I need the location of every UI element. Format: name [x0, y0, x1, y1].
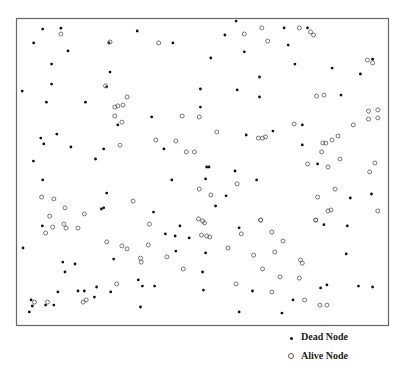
dead-node-point [202, 289, 205, 292]
dead-node-point [238, 226, 241, 229]
dead-node-point [50, 63, 53, 66]
dead-node-point [50, 83, 53, 86]
dead-node-point [55, 133, 58, 136]
dead-node-point [236, 89, 239, 92]
dead-node-point [287, 44, 290, 47]
dead-node-point [272, 130, 275, 133]
dead-node-point [70, 146, 73, 149]
dead-node-point [294, 63, 297, 66]
dead-node-point [238, 311, 241, 314]
dead-node-point [319, 287, 322, 290]
dead-node-point [340, 94, 343, 97]
dead-node-point [41, 28, 44, 31]
dead-node-point [235, 20, 238, 23]
dead-node-point [251, 290, 254, 293]
dead-node-point [174, 250, 177, 253]
dead-node-point [84, 101, 87, 104]
dead-node-point [172, 42, 175, 45]
dead-node-point [21, 90, 24, 93]
dead-node-point [283, 27, 286, 30]
dead-node-point [204, 252, 207, 255]
dead-node-point [64, 271, 67, 274]
dead-node-point [214, 205, 217, 208]
dead-node-point [349, 197, 352, 200]
dead-node-point [199, 88, 202, 91]
dead-node-point [41, 225, 44, 228]
dead-node-point [77, 290, 80, 293]
dead-node-point [316, 163, 319, 166]
dead-node-point [370, 193, 373, 196]
dead-node-point [45, 101, 48, 104]
dead-node-point [245, 134, 248, 137]
legend-item-alive: Alive Node [286, 350, 348, 361]
dead-node-point [109, 291, 112, 294]
dead-node-point [57, 291, 60, 294]
legend-label-alive: Alive Node [301, 350, 348, 361]
dead-node-point [152, 211, 155, 214]
dead-node-point [32, 42, 35, 45]
dead-node-point [371, 286, 374, 289]
dead-node-point [234, 170, 237, 173]
dead-node-point [31, 305, 34, 308]
dead-node-point [346, 225, 349, 228]
dead-node-point [150, 116, 153, 119]
dead-node-point [141, 285, 144, 288]
dead-node-point [137, 279, 140, 282]
dead-node-point [224, 34, 227, 37]
dead-node-point [32, 160, 35, 163]
dead-node-point [30, 299, 33, 302]
dead-node-point [139, 306, 142, 309]
scatter-plot [0, 0, 403, 373]
dead-node-point [331, 67, 334, 70]
dead-node-point [41, 179, 44, 182]
legend-label-dead: Dead Node [301, 331, 348, 342]
dead-node-point [83, 290, 86, 293]
dead-node-point [164, 233, 167, 236]
dead-node-point [281, 312, 284, 315]
dead-node-point [301, 124, 304, 127]
dead-node-point [39, 137, 42, 140]
dead-node-point [94, 158, 97, 161]
dead-node-point [105, 192, 108, 195]
dead-node-point [258, 76, 261, 79]
dead-node-point [112, 258, 115, 261]
dead-node-point [163, 148, 166, 151]
dead-node-point [93, 296, 96, 299]
dead-node-point [174, 235, 177, 238]
dead-node-point [28, 311, 31, 314]
dead-node-point [306, 27, 309, 30]
dead-node-point [60, 27, 63, 30]
dead-node-point [179, 225, 182, 228]
dead-node-point [42, 143, 45, 146]
dead-node-point [136, 30, 139, 33]
dead-node-point [201, 271, 204, 274]
dead-node-point [188, 237, 191, 240]
alive-node-marker-icon [286, 350, 296, 361]
dead-node-point [52, 304, 55, 307]
dead-node-point [100, 208, 103, 211]
dead-node-point [209, 57, 212, 60]
plot-frame [17, 19, 389, 326]
dead-node-point [243, 50, 246, 53]
dead-node-point [208, 166, 211, 169]
dead-node-point [22, 247, 25, 250]
dead-node-point [116, 124, 119, 127]
dead-node-point [371, 58, 374, 61]
dead-node-point [102, 148, 105, 151]
legend-item-dead: Dead Node [286, 331, 348, 342]
dead-node-point [67, 50, 70, 53]
dead-node-point [95, 286, 98, 289]
dead-node-point [204, 178, 207, 181]
dead-node-point [326, 284, 329, 287]
dead-node-point [359, 73, 362, 76]
dead-node-marker-icon [286, 331, 296, 342]
dead-node-point [170, 179, 173, 182]
dead-node-point [61, 261, 64, 264]
dead-node-point [109, 71, 112, 74]
dead-node-point [301, 144, 304, 147]
dead-node-point [292, 299, 295, 302]
dead-node-point [255, 179, 258, 182]
dead-node-point [357, 285, 360, 288]
dead-node-point [225, 194, 228, 197]
dead-node-point [323, 223, 326, 226]
